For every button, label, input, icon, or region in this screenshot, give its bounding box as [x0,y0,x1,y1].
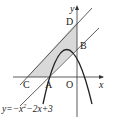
x-axis-label: x [98,79,104,90]
origin-label: O [66,79,73,90]
equation-prefix: y=−x [1,104,24,114]
line-ab [20,28,99,106]
graph-diagram: y D B C A O x y=−x2−2x+3 [0,0,113,136]
point-b-label: B [80,40,87,51]
equation-label: y=−x2−2x+3 [1,103,53,114]
point-d-label: D [66,16,73,27]
point-c-label: C [23,79,30,90]
equation-suffix: −2x+3 [26,104,53,114]
point-a-label: A [45,79,53,90]
y-axis-label: y [69,3,75,14]
y-axis-arrow-icon [75,5,79,10]
